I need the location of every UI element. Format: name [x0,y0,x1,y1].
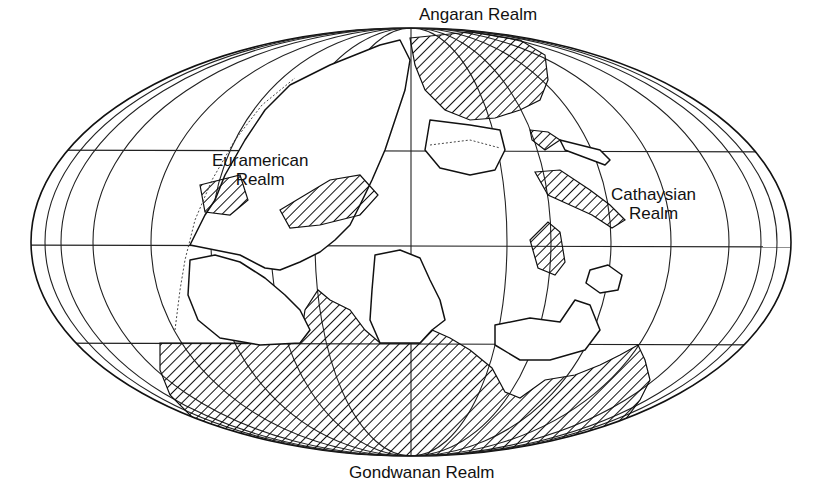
realm-label-cathaysian: Cathaysian Realm [611,185,696,223]
map-canvas [0,0,822,492]
realm-label-euramerican: Euramerican Realm [212,151,308,189]
kazakhstania [425,120,505,175]
south-america [188,255,310,345]
realm-label-gondwanan: Gondwanan Realm [349,463,495,482]
africa [370,250,445,343]
tarim-block [530,130,560,150]
realm-label-angaran: Angaran Realm [419,5,537,24]
south-china-block [530,222,565,275]
angara-hatched [410,32,548,120]
paleogeographic-world-map: Angaran Realm Euramerican Realm Cathaysi… [0,0,822,492]
east-gondwana-margin [495,300,600,360]
strip-block [560,140,610,165]
indochina-block [586,265,622,293]
landmasses [160,32,650,458]
